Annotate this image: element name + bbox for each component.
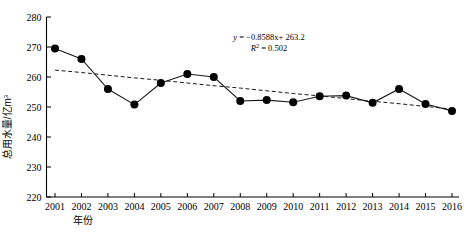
x-tick-label: 2005 — [151, 201, 171, 212]
x-tick-label: 2013 — [363, 201, 383, 212]
y-axis-ticks — [47, 17, 52, 197]
data-series-line — [55, 49, 452, 111]
y-tick-label: 280 — [27, 12, 42, 23]
x-tick-label: 2012 — [336, 201, 356, 212]
line-chart: 220230240250260270280 200120022003200420… — [0, 0, 467, 243]
y-tick-label: 260 — [27, 72, 42, 83]
y-tick-label: 270 — [27, 42, 42, 53]
data-point — [236, 97, 244, 105]
data-point — [210, 73, 218, 81]
data-point — [157, 79, 165, 87]
x-tick-label: 2016 — [442, 201, 462, 212]
x-axis-title: 年份 — [73, 214, 93, 226]
x-axis-tick-labels: 2001200220032004200520062007200820092010… — [45, 201, 462, 212]
x-tick-label: 2015 — [416, 201, 436, 212]
x-tick-label: 2001 — [45, 201, 65, 212]
y-tick-label: 220 — [27, 192, 42, 203]
data-point — [77, 55, 85, 63]
trendline-series — [55, 70, 452, 109]
x-tick-label: 2006 — [177, 201, 197, 212]
x-tick-label: 2010 — [283, 201, 303, 212]
y-tick-label: 250 — [27, 102, 42, 113]
data-point — [183, 70, 191, 78]
data-point — [422, 100, 430, 108]
x-tick-label: 2004 — [124, 201, 144, 212]
x-tick-label: 2003 — [98, 201, 118, 212]
x-tick-label: 2008 — [230, 201, 250, 212]
x-tick-label: 2002 — [71, 201, 91, 212]
x-tick-label: 2009 — [257, 201, 277, 212]
chart-container: 220230240250260270280 200120022003200420… — [0, 0, 467, 243]
data-point — [369, 99, 377, 107]
y-axis-tick-labels: 220230240250260270280 — [27, 12, 42, 203]
y-axis-title: 总用水量/亿m3 — [1, 94, 13, 159]
y-tick-label: 240 — [27, 132, 42, 143]
data-point — [289, 98, 297, 106]
data-point — [51, 45, 59, 53]
data-point — [395, 85, 403, 93]
data-point — [342, 92, 350, 100]
regression-equation-label: y = −0.8588x+ 263.2 — [232, 32, 304, 42]
data-point — [104, 85, 112, 93]
data-point — [130, 101, 138, 109]
y-tick-label: 230 — [27, 162, 42, 173]
data-point — [316, 92, 324, 100]
x-tick-label: 2011 — [310, 201, 330, 212]
x-axis-ticks — [55, 193, 452, 197]
r-squared-label: R2 = 0.502 — [250, 43, 287, 53]
data-point — [448, 107, 456, 115]
x-tick-label: 2007 — [204, 201, 224, 212]
data-series-markers — [51, 45, 456, 115]
x-tick-label: 2014 — [389, 201, 409, 212]
data-point — [263, 96, 271, 104]
